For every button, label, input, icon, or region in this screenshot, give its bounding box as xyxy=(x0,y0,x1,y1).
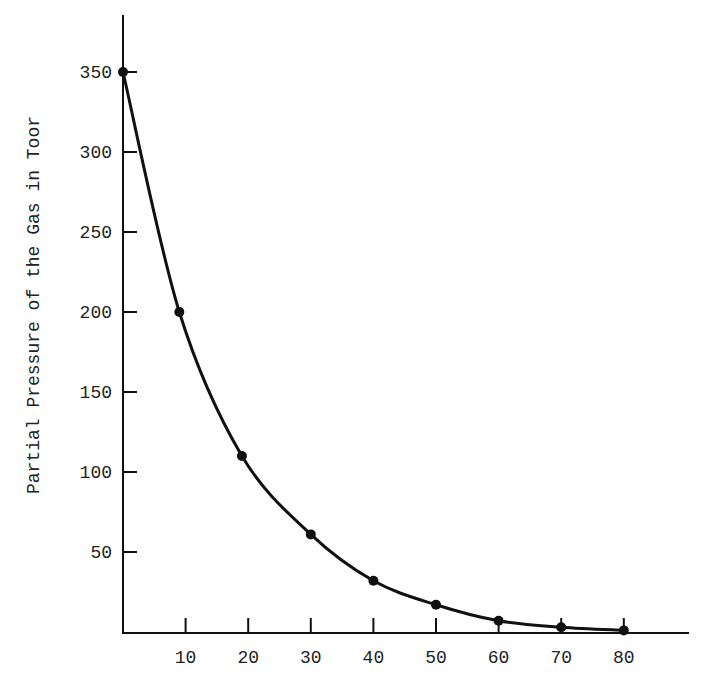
y-tick-label: 150 xyxy=(80,383,112,403)
chart-canvas: 50100150200250300350 1020304050607080 Pa… xyxy=(0,0,708,695)
y-tick-label: 100 xyxy=(80,463,112,483)
data-point-marker xyxy=(306,529,316,539)
y-ticks: 50100150200250300350 xyxy=(80,63,137,563)
y-tick-label: 300 xyxy=(80,143,112,163)
y-tick-label: 350 xyxy=(80,63,112,83)
data-curve xyxy=(123,72,624,630)
data-point-marker xyxy=(368,576,378,586)
data-point-marker xyxy=(237,451,247,461)
x-tick-label: 20 xyxy=(237,648,259,668)
x-tick-label: 70 xyxy=(550,648,572,668)
data-point-marker xyxy=(556,622,566,632)
data-point-marker xyxy=(118,67,128,77)
data-point-marker xyxy=(431,600,441,610)
data-point-marker xyxy=(619,625,629,635)
x-tick-label: 40 xyxy=(363,648,385,668)
x-tick-label: 30 xyxy=(300,648,322,668)
y-axis-title: Partial Pressure of the Gas in Toor xyxy=(24,116,44,494)
y-tick-label: 250 xyxy=(80,223,112,243)
data-point-marker xyxy=(174,307,184,317)
axes: 50100150200250300350 1020304050607080 xyxy=(80,15,689,668)
data-point-marker xyxy=(494,616,504,626)
x-tick-label: 60 xyxy=(488,648,510,668)
y-tick-label: 50 xyxy=(90,543,112,563)
data-markers xyxy=(118,67,629,635)
x-tick-label: 10 xyxy=(175,648,197,668)
x-tick-label: 80 xyxy=(613,648,635,668)
x-tick-label: 50 xyxy=(425,648,447,668)
y-tick-label: 200 xyxy=(80,303,112,323)
